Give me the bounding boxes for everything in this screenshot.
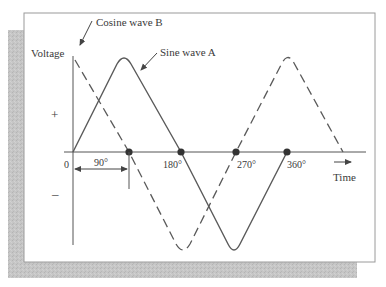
x-axis-label: Time	[333, 172, 356, 183]
diagram-svg	[0, 0, 386, 287]
phase-shift-label: 90°	[94, 158, 108, 168]
positive-sign: +	[51, 108, 58, 121]
tick-label-180: 180°	[163, 160, 182, 170]
negative-sign: –	[52, 187, 59, 200]
tick-label-270: 270°	[237, 160, 256, 170]
sine-wave-label: Sine wave A	[160, 47, 216, 58]
origin-label: 0	[64, 160, 69, 170]
cosine-wave-label: Cosine wave B	[96, 17, 163, 28]
tick-label-360: 360°	[287, 160, 306, 170]
dot-360	[283, 148, 290, 155]
y-axis-label: Voltage	[31, 48, 64, 59]
dot-270	[232, 148, 239, 155]
dot-180	[177, 148, 184, 155]
diagram-canvas: Voltage Cosine wave B Sine wave A + – 0 …	[0, 0, 386, 287]
